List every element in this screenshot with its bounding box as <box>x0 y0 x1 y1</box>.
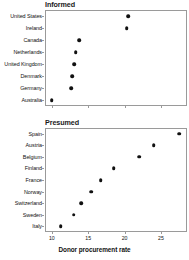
data-point <box>125 26 129 30</box>
category-label: Sweden <box>23 212 42 218</box>
y-axis-tick <box>42 64 44 65</box>
category-label: Denmark <box>20 73 42 79</box>
category-label: Canada <box>23 37 42 43</box>
x-axis-tick <box>52 232 53 234</box>
data-point <box>72 213 76 217</box>
category-label: Norway <box>24 189 42 195</box>
data-point <box>50 98 54 102</box>
category-label: Finland <box>25 165 42 171</box>
y-axis-tick <box>42 157 44 158</box>
data-point <box>112 167 116 171</box>
y-axis-tick <box>42 145 44 146</box>
y-axis-tick <box>42 16 44 17</box>
x-axis-tick <box>161 106 162 108</box>
y-axis-tick <box>42 134 44 135</box>
x-axis-title: Donor procurement rate <box>0 246 189 254</box>
data-point <box>99 178 103 182</box>
y-axis-tick <box>42 192 44 193</box>
data-point <box>126 14 130 18</box>
x-axis-tick-label: 10 <box>49 235 55 241</box>
x-axis-tick <box>88 232 89 234</box>
y-axis-tick <box>42 203 44 204</box>
x-axis-tick <box>161 232 162 234</box>
y-axis-tick <box>42 40 44 41</box>
data-point <box>137 155 141 159</box>
panel-informed-title: Informed <box>45 0 75 9</box>
y-axis-tick <box>42 100 44 101</box>
category-label: United Kingdom <box>4 61 42 67</box>
data-point <box>177 132 181 136</box>
category-label: Germany <box>20 85 42 91</box>
data-point <box>70 86 74 90</box>
panel-presumed: Presumed SpainAustriaBelgiumFinlandFranc… <box>0 118 189 260</box>
data-point <box>70 74 74 78</box>
y-axis-tick <box>42 168 44 169</box>
x-axis-tick-label: 20 <box>122 235 128 241</box>
x-axis-tick <box>125 232 126 234</box>
panel-informed-plot-area <box>45 10 187 106</box>
data-point <box>152 144 156 148</box>
category-label: Ireland <box>26 25 42 31</box>
category-label: United States <box>10 13 42 19</box>
y-axis-tick <box>42 215 44 216</box>
x-axis-tick-label: 15 <box>85 235 91 241</box>
data-point <box>59 224 63 228</box>
panel-presumed-title: Presumed <box>45 118 79 127</box>
category-label: Italy <box>32 223 42 229</box>
data-point <box>73 62 77 66</box>
y-axis-tick <box>42 88 44 89</box>
panel-presumed-plot-area <box>45 128 187 232</box>
y-axis-tick <box>42 226 44 227</box>
y-axis-tick <box>42 28 44 29</box>
y-axis-tick <box>42 52 44 53</box>
data-point <box>74 50 78 54</box>
x-axis-tick-label: 25 <box>158 235 164 241</box>
figure-donor-procurement: Informed United StatesIrelandCanadaNethe… <box>0 0 189 260</box>
category-label: Switzerland <box>15 200 42 206</box>
x-axis-tick <box>125 106 126 108</box>
panel-informed: Informed United StatesIrelandCanadaNethe… <box>0 0 189 118</box>
category-label: Australia <box>21 97 42 103</box>
category-label: Belgium <box>23 154 42 160</box>
y-axis-tick <box>42 76 44 77</box>
data-point <box>89 190 93 194</box>
x-axis-tick <box>88 106 89 108</box>
x-axis-tick <box>52 106 53 108</box>
category-label: Spain <box>28 131 42 137</box>
data-point <box>78 38 82 42</box>
data-point <box>79 201 83 205</box>
category-label: Netherlands <box>13 49 42 55</box>
y-axis-tick <box>42 180 44 181</box>
category-label: France <box>26 177 42 183</box>
category-label: Austria <box>26 142 42 148</box>
